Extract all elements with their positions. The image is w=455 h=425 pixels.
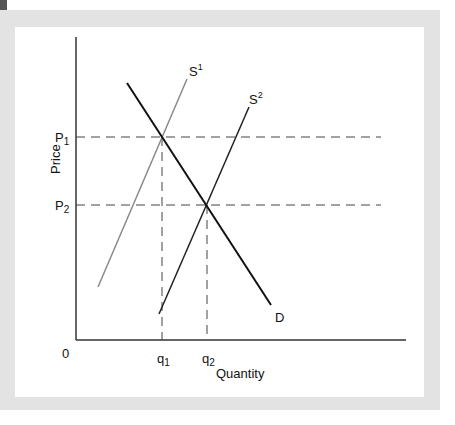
supply-demand-chart: S1 S2 D P1 P2 q1 q2 0 Quantity Price	[0, 0, 455, 425]
p2-label: P2	[55, 198, 70, 215]
y-axis-title: Price	[48, 144, 63, 174]
s2-label: S2	[249, 90, 263, 107]
origin-label: 0	[62, 346, 69, 361]
demand-label: D	[275, 310, 284, 325]
s1-curve	[98, 79, 187, 287]
s1-label: S1	[189, 62, 203, 79]
x-axis-title: Quantity	[216, 366, 265, 381]
q2-label: q2	[202, 351, 215, 368]
q1-label: q1	[157, 351, 170, 368]
s2-curve	[159, 107, 249, 314]
demand-curve	[127, 83, 271, 305]
